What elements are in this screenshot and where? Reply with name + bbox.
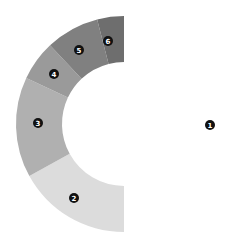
marker-4: 4 (49, 69, 59, 79)
marker-label: 6 (106, 38, 111, 46)
segment-1 (124, 16, 232, 232)
donut-segments (16, 16, 232, 232)
marker-label: 4 (52, 71, 57, 79)
marker-6: 6 (103, 36, 113, 46)
marker-1: 1 (205, 120, 215, 130)
marker-5: 5 (74, 45, 84, 55)
marker-3: 3 (33, 118, 43, 128)
marker-2: 2 (69, 193, 79, 203)
marker-label: 5 (77, 47, 82, 55)
marker-label: 2 (72, 195, 77, 203)
donut-chart: 123456 (0, 0, 240, 251)
marker-label: 1 (208, 122, 213, 130)
marker-label: 3 (36, 120, 41, 128)
